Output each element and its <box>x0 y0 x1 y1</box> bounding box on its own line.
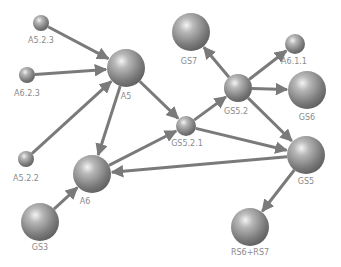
edge-gs5-to-a6 <box>112 157 287 173</box>
edge-a5-to-a6 <box>98 86 120 155</box>
diagram-canvas: A5.2.3A6.2.3A5.2.2A5A6GS3GS5.2.1GS7A6.1.… <box>0 0 341 267</box>
node-rs6-rs7 <box>231 208 269 246</box>
node-gs3 <box>21 203 59 241</box>
node-gs5-2 <box>224 74 252 102</box>
node-a6-2-3 <box>19 67 35 83</box>
edge-a6-2-3-to-a5 <box>35 69 106 74</box>
node-a5 <box>107 49 145 87</box>
edge-gs5-2-to-gs6 <box>252 88 287 89</box>
edge-gs5-2-to-gs7 <box>204 47 229 77</box>
edge-a5-2-3-to-a5 <box>48 27 108 59</box>
node-label-gs5-2-1: GS5.2.1 <box>171 139 203 148</box>
node-label-a6: A6 <box>80 197 91 206</box>
node-label-rs6-rs7: RS6+RS7 <box>231 248 269 257</box>
graph-svg: A5.2.3A6.2.3A5.2.2A5A6GS3GS5.2.1GS7A6.1.… <box>0 0 341 267</box>
node-label-a5: A5 <box>121 92 132 101</box>
edge-a6-to-gs5-2-1 <box>109 131 176 165</box>
node-label-gs3: GS3 <box>32 243 48 252</box>
node-a6-1-1 <box>285 34 305 54</box>
node-label-a5-2-3: A5.2.3 <box>28 36 54 45</box>
edges-layer <box>32 27 294 211</box>
node-gs5 <box>287 136 325 174</box>
node-label-gs7: GS7 <box>181 57 197 66</box>
node-a5-2-2 <box>18 151 34 167</box>
edge-gs3-to-a6 <box>54 188 77 210</box>
edge-gs5-2-1-to-gs5 <box>196 128 287 150</box>
node-gs7 <box>172 13 210 51</box>
node-label-gs5-2: GS5.2 <box>224 107 248 116</box>
node-label-a5-2-2: A5.2.2 <box>13 174 39 183</box>
node-gs5-2-1 <box>176 116 196 136</box>
node-label-a6-2-3: A6.2.3 <box>14 89 40 98</box>
edge-gs5-2-to-gs5 <box>248 98 292 141</box>
node-label-gs5: GS5 <box>298 177 314 186</box>
node-a6 <box>73 155 111 193</box>
node-gs6 <box>288 71 326 109</box>
edge-gs5-2-1-to-gs5-2 <box>194 97 226 120</box>
edge-gs5-to-rs6-rs7 <box>262 170 294 211</box>
node-a5-2-3 <box>33 15 49 31</box>
node-label-gs6: GS6 <box>299 113 315 122</box>
edge-a5-2-2-to-a5 <box>32 81 111 153</box>
node-label-a6-1-1: A6.1.1 <box>281 57 307 66</box>
edge-a5-to-gs5-2-1 <box>140 81 178 118</box>
